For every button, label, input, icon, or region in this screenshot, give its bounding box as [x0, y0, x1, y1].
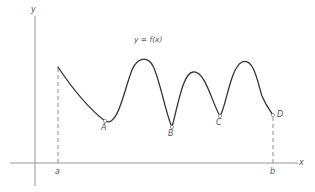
interval-start-label: a: [55, 168, 60, 176]
function-label: y = f(x): [134, 36, 162, 44]
y-axis-label: y: [31, 6, 36, 14]
point-label-a: A: [101, 124, 106, 132]
x-axis-label: x: [299, 159, 304, 167]
point-d-marker: [271, 113, 274, 116]
interval-end-label: b: [270, 168, 275, 176]
point-label-d: D: [277, 111, 283, 119]
point-label-c: C: [216, 119, 222, 127]
function-curve: [58, 59, 273, 127]
point-label-b: B: [168, 130, 174, 138]
function-graph: y x y = f(x) A B C D a b: [0, 0, 315, 192]
